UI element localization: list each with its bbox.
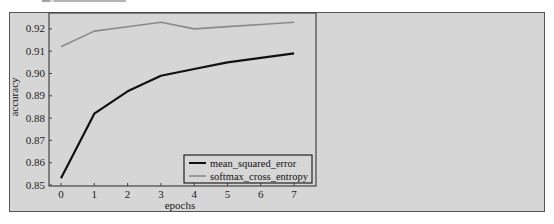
legend-label-softmax: softmax_cross_entropy	[210, 171, 309, 182]
x-tick-label: 5	[225, 188, 231, 200]
y-axis: 0.850.860.870.880.890.900.910.92	[26, 22, 52, 190]
y-tick-label: 0.92	[26, 22, 45, 34]
series-line-softmax-cross-entropy	[61, 22, 294, 47]
x-tick-label: 1	[92, 188, 98, 200]
y-tick-label: 0.91	[26, 45, 45, 57]
y-tick-label: 0.87	[26, 134, 46, 146]
y-tick-label: 0.88	[26, 112, 46, 124]
x-tick-label: 2	[125, 188, 131, 200]
x-tick-label: 3	[158, 188, 164, 200]
y-tick-label: 0.85	[26, 179, 46, 191]
line-chart: 0.850.860.870.880.890.900.910.92 0123456…	[0, 0, 554, 224]
y-tick-label: 0.89	[26, 89, 46, 101]
x-tick-label: 0	[58, 188, 64, 200]
y-axis-label: accuracy	[8, 77, 20, 117]
legend-label-mse: mean_squared_error	[210, 158, 297, 169]
x-tick-label: 6	[258, 188, 264, 200]
y-tick-label: 0.86	[26, 156, 46, 168]
y-tick-label: 0.90	[26, 67, 46, 79]
x-axis-label: epochs	[165, 199, 196, 211]
x-tick-label: 7	[291, 188, 297, 200]
legend: mean_squared_error softmax_cross_entropy	[184, 155, 312, 183]
